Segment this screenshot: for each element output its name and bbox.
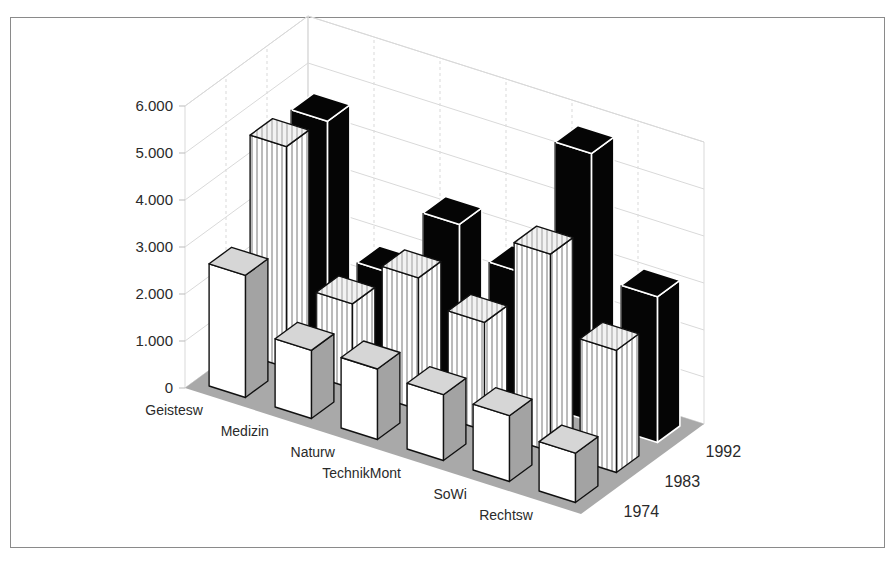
bar-front: [407, 383, 443, 460]
y-axis: 01.0002.0003.0004.0005.0006.000: [135, 97, 185, 396]
bars: [209, 93, 680, 502]
bar-Medizin-1974: [275, 322, 334, 418]
bar-front: [275, 339, 311, 419]
y-tick-label: 1.000: [135, 332, 173, 349]
y-tick-label: 3.000: [135, 238, 173, 255]
bar-Geistesw-1974: [209, 247, 268, 397]
category-label: Naturw: [291, 444, 336, 460]
bar-Naturw-1974: [341, 341, 400, 440]
y-tick-label: 0: [165, 379, 173, 396]
y-tick-label: 2.000: [135, 285, 173, 302]
category-label: TechnikMont: [322, 465, 401, 481]
y-tick-label: 6.000: [135, 97, 173, 114]
bar-side: [616, 334, 639, 473]
gridline: [185, 16, 704, 142]
series-label: 1992: [706, 443, 742, 460]
y-tick-label: 4.000: [135, 191, 173, 208]
y-tick-label: 5.000: [135, 144, 173, 161]
category-label: Rechtsw: [479, 507, 534, 523]
series-label: 1974: [624, 503, 660, 520]
bar-front: [341, 358, 377, 440]
category-label: Geistesw: [145, 402, 203, 418]
bar-TechnikMont-1974: [407, 367, 466, 461]
bar-side: [657, 280, 680, 442]
bar-side: [550, 238, 573, 452]
bar-Rechtsw-1974: [539, 425, 598, 502]
bar-front: [209, 264, 245, 398]
bar-SoWi-1974: [473, 388, 532, 482]
3d-bar-chart: 01.0002.0003.0004.0005.0006.000 Geistesw…: [0, 0, 892, 567]
bar-side: [245, 259, 268, 398]
category-label: SoWi: [433, 486, 466, 502]
series-label: 1983: [665, 473, 701, 490]
bar-front: [473, 404, 509, 481]
category-label: Medizin: [221, 423, 269, 439]
